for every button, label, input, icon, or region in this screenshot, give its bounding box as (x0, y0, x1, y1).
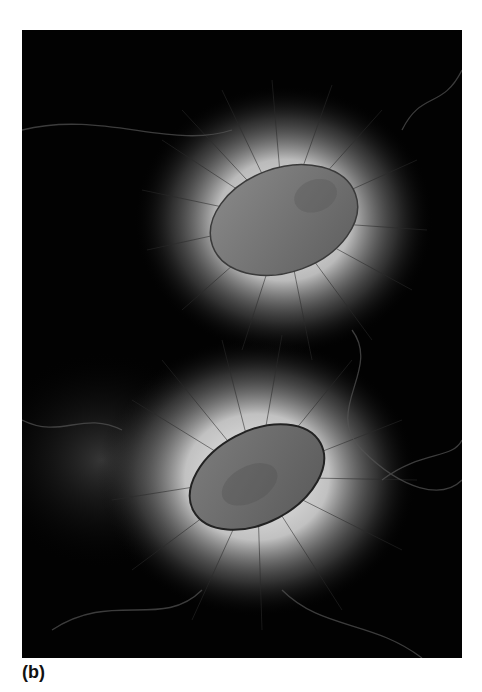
micrograph-illustration (22, 30, 462, 658)
panel-label: (b) (22, 663, 45, 681)
micrograph-photo (22, 30, 462, 658)
